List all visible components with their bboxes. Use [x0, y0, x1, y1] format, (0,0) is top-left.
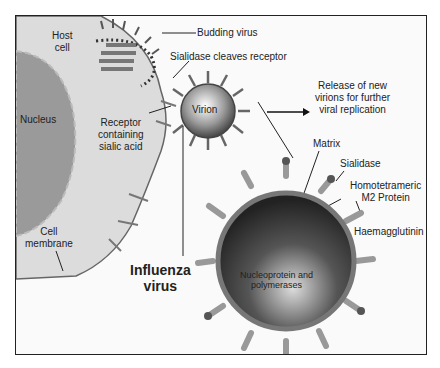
label-sialidase-cleaves: Sialidase cleaves receptor [170, 51, 287, 63]
label-host-cell: Hostcell [52, 30, 73, 54]
label-cell-membrane: Cellmembrane [25, 226, 73, 250]
label-m2-protein: HomotetramericM2 Protein [350, 180, 421, 204]
label-release: Release of newvirions for furtherviral r… [315, 80, 390, 116]
label-haemagglutinin: Haemagglutinin [354, 226, 424, 238]
label-nucleus: Nucleus [20, 114, 56, 126]
label-budding-virus: Budding virus [197, 27, 258, 39]
label-sialidase: Sialidase [340, 158, 381, 170]
label-receptor: Receptorcontainingsialic acid [98, 117, 144, 153]
label-influenza-virus: Influenzavirus [130, 262, 191, 294]
label-virion: Virion [192, 104, 217, 116]
label-matrix: Matrix [313, 138, 340, 150]
influenza-virus [198, 157, 373, 354]
label-nucleoprotein: Nucleoprotein andpolymerases [240, 270, 313, 290]
